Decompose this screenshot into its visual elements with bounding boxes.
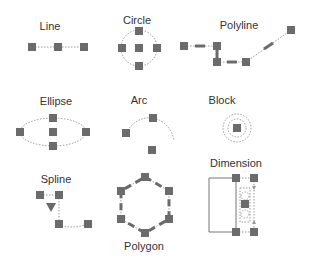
- square-grip-icon[interactable]: [80, 43, 88, 51]
- square-grip-icon[interactable]: [117, 187, 125, 195]
- square-grip-icon[interactable]: [165, 187, 173, 195]
- square-grip-icon[interactable]: [135, 44, 143, 52]
- square-grip-icon[interactable]: [28, 43, 36, 51]
- square-grip-icon[interactable]: [84, 220, 92, 228]
- square-grip-icon[interactable]: [250, 228, 258, 236]
- square-grip-icon[interactable]: [149, 114, 157, 122]
- square-grip-icon[interactable]: [213, 58, 221, 66]
- label-circle: Circle: [123, 14, 151, 26]
- label-dimension: Dimension: [210, 157, 262, 169]
- square-grip-icon[interactable]: [82, 128, 90, 136]
- square-grip-icon[interactable]: [49, 128, 57, 136]
- square-grip-icon[interactable]: [153, 44, 161, 52]
- square-grip-icon[interactable]: [54, 43, 62, 51]
- grip-diagram: .dot { stroke:#9a9a9a; stroke-width:1; f…: [0, 0, 313, 265]
- square-grip-icon[interactable]: [55, 220, 63, 228]
- square-grip-icon[interactable]: [213, 42, 221, 50]
- square-grip-icon[interactable]: [250, 174, 258, 182]
- square-grip-icon[interactable]: [287, 26, 295, 34]
- label-polyline: Polyline: [220, 19, 259, 31]
- label-block: Block: [209, 94, 236, 106]
- spline-example: [36, 191, 92, 228]
- square-grip-icon[interactable]: [55, 191, 63, 199]
- label-ellipse: Ellipse: [40, 95, 72, 107]
- line-example: [28, 43, 88, 51]
- square-grip-icon[interactable]: [117, 215, 125, 223]
- ellipse-example: [16, 114, 90, 150]
- square-grip-icon[interactable]: [241, 200, 249, 208]
- square-grip-icon[interactable]: [232, 174, 240, 182]
- square-grip-icon[interactable]: [232, 228, 240, 236]
- label-spline: Spline: [41, 173, 72, 185]
- square-grip-icon[interactable]: [233, 124, 241, 132]
- dimension-example: [209, 174, 258, 236]
- square-grip-icon[interactable]: [165, 215, 173, 223]
- square-grip-icon[interactable]: [141, 229, 149, 237]
- square-grip-icon[interactable]: [16, 128, 24, 136]
- square-grip-icon[interactable]: [135, 62, 143, 70]
- square-grip-icon[interactable]: [49, 142, 57, 150]
- square-grip-icon[interactable]: [49, 114, 57, 122]
- label-line: Line: [40, 20, 61, 32]
- block-example: [223, 114, 251, 142]
- square-grip-icon[interactable]: [36, 191, 44, 199]
- square-grip-icon[interactable]: [242, 58, 250, 66]
- square-grip-icon[interactable]: [141, 173, 149, 181]
- square-grip-icon[interactable]: [148, 146, 156, 154]
- circle-example: [118, 27, 161, 70]
- label-arc: Arc: [131, 94, 148, 106]
- square-grip-icon[interactable]: [180, 42, 188, 50]
- label-polygon: Polygon: [124, 240, 164, 252]
- square-grip-icon[interactable]: [135, 27, 143, 35]
- polygon-example: [117, 173, 173, 237]
- square-grip-icon[interactable]: [122, 129, 130, 137]
- polyline-example: [180, 26, 295, 66]
- triangle-down-icon[interactable]: [46, 203, 56, 212]
- arc-example: [122, 114, 174, 154]
- square-grip-icon[interactable]: [118, 44, 126, 52]
